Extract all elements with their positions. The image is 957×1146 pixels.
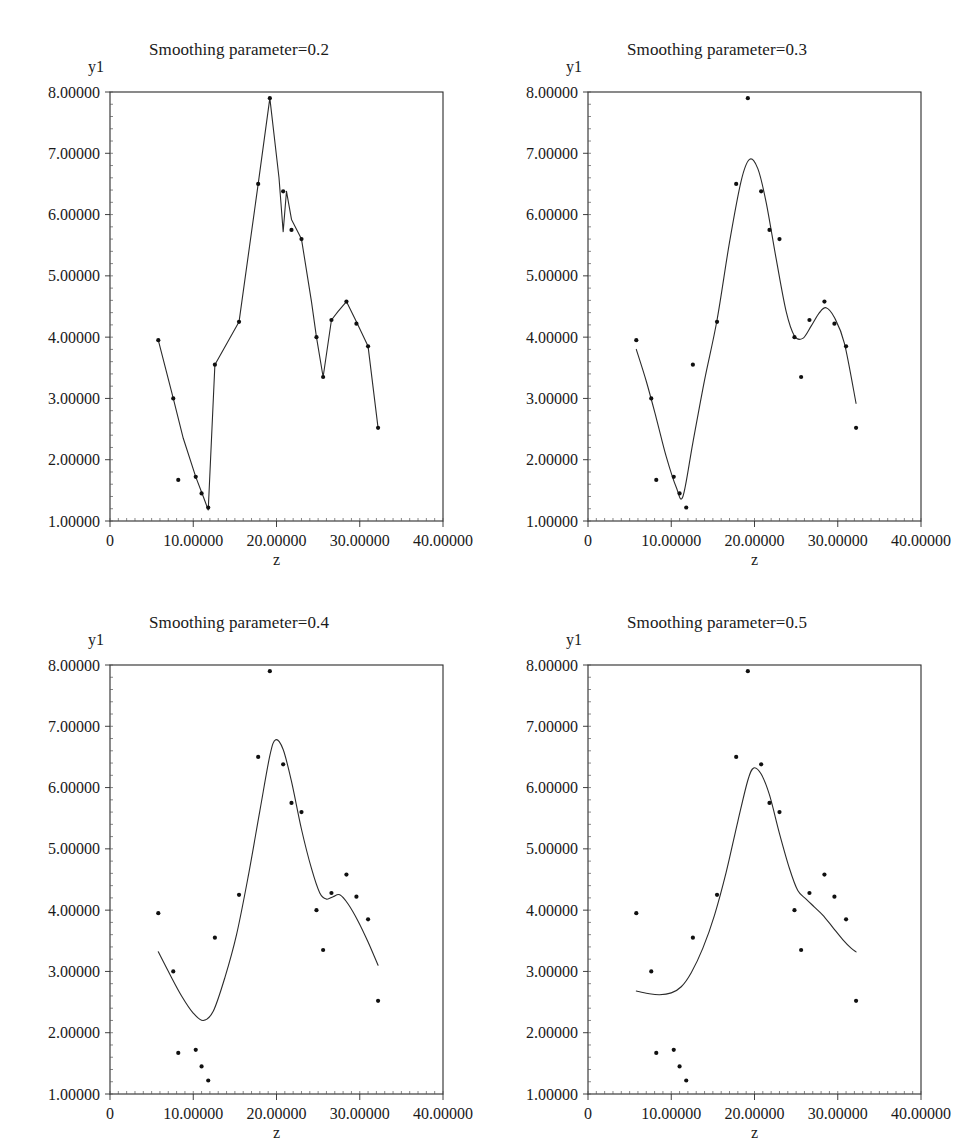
- x-tick-label: 30.00000: [808, 1105, 868, 1122]
- y-tick-label: 8.00000: [526, 657, 578, 674]
- data-point: [194, 1048, 198, 1052]
- y-tick-label: 6.00000: [48, 779, 100, 796]
- data-point: [268, 669, 272, 673]
- data-point: [746, 96, 750, 100]
- y-tick-label: 6.00000: [48, 206, 100, 223]
- data-point: [376, 999, 380, 1003]
- x-tick-label: 0: [106, 1105, 114, 1122]
- y-tick-label: 4.00000: [526, 329, 578, 346]
- data-point: [329, 318, 333, 322]
- x-tick-label: 20.00000: [725, 532, 785, 549]
- y-tick-label: 2.00000: [48, 1024, 100, 1041]
- data-point: [822, 299, 826, 303]
- plot-panel-sp02: Smoothing parameter=0.2y1z1.000002.00000…: [0, 0, 478, 573]
- data-point: [649, 969, 653, 973]
- data-point: [268, 96, 272, 100]
- data-point: [171, 396, 175, 400]
- y-tick-label: 5.00000: [48, 840, 100, 857]
- data-point: [715, 893, 719, 897]
- data-point: [822, 872, 826, 876]
- plot-area: 1.000002.000003.000004.000005.000006.000…: [0, 0, 478, 573]
- data-point: [354, 895, 358, 899]
- x-tick-label: 20.00000: [725, 1105, 785, 1122]
- data-point: [654, 478, 658, 482]
- x-tick-label: 30.00000: [808, 532, 868, 549]
- y-tick-label: 2.00000: [526, 451, 578, 468]
- data-point: [677, 1064, 681, 1068]
- y-tick-label: 1.00000: [526, 513, 578, 530]
- data-point: [366, 917, 370, 921]
- data-point: [376, 426, 380, 430]
- plot-panel-sp03: Smoothing parameter=0.3y1z1.000002.00000…: [478, 0, 956, 573]
- data-point: [237, 893, 241, 897]
- data-point: [256, 755, 260, 759]
- y-tick-label: 3.00000: [526, 390, 578, 407]
- y-tick-label: 7.00000: [48, 145, 100, 162]
- y-tick-label: 2.00000: [526, 1024, 578, 1041]
- data-point: [299, 810, 303, 814]
- y-tick-label: 4.00000: [48, 902, 100, 919]
- data-point: [759, 189, 763, 193]
- plot-area: 1.000002.000003.000004.000005.000006.000…: [478, 573, 956, 1146]
- data-point: [854, 426, 858, 430]
- y-tick-label: 8.00000: [48, 657, 100, 674]
- data-point: [807, 318, 811, 322]
- data-point: [844, 917, 848, 921]
- data-point: [654, 1051, 658, 1055]
- data-point: [691, 363, 695, 367]
- data-point: [281, 189, 285, 193]
- y-tick-label: 5.00000: [48, 267, 100, 284]
- plot-panel-sp05: Smoothing parameter=0.5y1z1.000002.00000…: [478, 573, 956, 1146]
- y-tick-label: 7.00000: [526, 145, 578, 162]
- data-point: [767, 801, 771, 805]
- data-point: [171, 969, 175, 973]
- data-point: [354, 322, 358, 326]
- x-tick-label: 40.00000: [891, 1105, 951, 1122]
- data-point: [156, 338, 160, 342]
- data-point: [321, 948, 325, 952]
- y-tick-label: 3.00000: [48, 390, 100, 407]
- y-tick-label: 6.00000: [526, 779, 578, 796]
- data-point: [156, 911, 160, 915]
- data-point: [289, 228, 293, 232]
- data-point: [649, 396, 653, 400]
- data-point: [844, 344, 848, 348]
- data-point: [634, 911, 638, 915]
- y-tick-label: 4.00000: [526, 902, 578, 919]
- y-tick-label: 7.00000: [526, 718, 578, 735]
- x-tick-label: 20.00000: [247, 532, 307, 549]
- x-tick-label: 0: [584, 532, 592, 549]
- data-point: [807, 891, 811, 895]
- data-point: [854, 999, 858, 1003]
- data-point: [677, 491, 681, 495]
- data-point: [759, 762, 763, 766]
- smoothing-curve: [158, 740, 378, 1021]
- x-tick-label: 20.00000: [247, 1105, 307, 1122]
- data-point: [199, 491, 203, 495]
- y-tick-label: 5.00000: [526, 840, 578, 857]
- data-point: [734, 182, 738, 186]
- data-point: [206, 1078, 210, 1082]
- y-tick-label: 1.00000: [526, 1086, 578, 1103]
- x-tick-label: 30.00000: [330, 1105, 390, 1122]
- data-point: [799, 948, 803, 952]
- data-point: [329, 891, 333, 895]
- data-point: [344, 299, 348, 303]
- data-point: [746, 669, 750, 673]
- x-tick-label: 0: [106, 532, 114, 549]
- data-point: [767, 228, 771, 232]
- y-tick-label: 3.00000: [48, 963, 100, 980]
- data-point: [777, 810, 781, 814]
- data-point: [199, 1064, 203, 1068]
- y-tick-label: 7.00000: [48, 718, 100, 735]
- data-point: [176, 1051, 180, 1055]
- data-point: [684, 505, 688, 509]
- data-point: [213, 936, 217, 940]
- y-tick-label: 4.00000: [48, 329, 100, 346]
- data-point: [672, 475, 676, 479]
- data-point: [314, 335, 318, 339]
- data-point: [366, 344, 370, 348]
- y-tick-label: 5.00000: [526, 267, 578, 284]
- data-point: [194, 475, 198, 479]
- x-tick-label: 30.00000: [330, 532, 390, 549]
